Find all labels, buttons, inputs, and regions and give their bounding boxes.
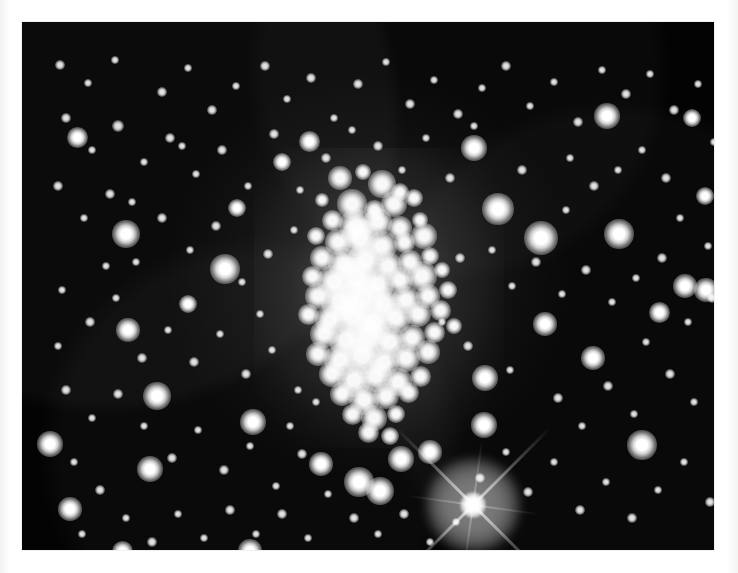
star-point <box>523 487 534 498</box>
star-point <box>299 131 320 152</box>
star-point <box>360 360 392 392</box>
star-point <box>673 274 696 297</box>
star-point <box>256 310 264 318</box>
star-point <box>132 258 140 266</box>
star-point <box>302 266 323 287</box>
star-point <box>594 103 619 128</box>
star-point <box>322 210 343 231</box>
star-point <box>324 490 332 498</box>
star-point <box>384 368 411 395</box>
star-point <box>661 173 672 184</box>
star-point <box>373 141 384 152</box>
star-point <box>112 220 139 247</box>
star-point <box>472 365 497 390</box>
star-point <box>478 84 486 92</box>
star-point <box>219 465 230 476</box>
star-point <box>298 304 319 325</box>
star-point <box>342 404 363 425</box>
star-point <box>164 326 172 334</box>
star-point <box>283 95 291 103</box>
star-point <box>140 158 148 166</box>
star-point <box>430 76 438 84</box>
star-point <box>405 99 416 110</box>
star-point <box>269 129 280 140</box>
star-point <box>638 146 646 154</box>
star-point <box>358 422 379 443</box>
star-point <box>562 206 570 214</box>
star-point <box>578 422 586 430</box>
star-point <box>368 170 395 197</box>
star-point <box>113 389 124 400</box>
star-point <box>263 249 274 260</box>
star-point <box>705 497 714 508</box>
star-point <box>54 342 62 350</box>
star-point <box>111 56 119 64</box>
star-point <box>418 440 441 463</box>
star-point <box>676 214 684 222</box>
star-point <box>174 510 182 518</box>
star-point <box>471 412 496 437</box>
star-point <box>367 231 396 260</box>
star-point <box>566 154 574 162</box>
star-point <box>598 66 606 74</box>
star-point <box>348 126 356 134</box>
star-point <box>332 296 372 336</box>
star-point <box>122 514 130 522</box>
star-point <box>339 209 373 243</box>
star-point <box>80 214 88 222</box>
star-point <box>78 530 86 538</box>
star-point <box>137 353 148 364</box>
star-point <box>310 320 337 347</box>
star-point <box>194 426 202 434</box>
star-point <box>694 278 714 301</box>
star-point <box>329 323 363 357</box>
star-point <box>573 117 584 128</box>
star-point <box>128 198 136 206</box>
star-point <box>405 301 430 326</box>
star-point <box>398 382 419 403</box>
star-point <box>526 102 534 110</box>
star-point <box>58 286 66 294</box>
star-point <box>304 534 312 542</box>
star-point <box>632 274 640 282</box>
star-point <box>627 430 656 459</box>
star-point <box>373 383 398 408</box>
star-point <box>533 312 556 335</box>
star-point <box>61 385 72 396</box>
star-point <box>238 539 261 550</box>
star-point <box>621 89 632 100</box>
star-point <box>614 166 622 174</box>
star-point <box>112 541 133 551</box>
star-point <box>381 191 406 216</box>
star-point <box>367 287 401 321</box>
star-point <box>502 448 510 456</box>
star-point <box>268 346 276 354</box>
star-point <box>67 127 88 148</box>
star-point <box>273 153 292 172</box>
star-point <box>307 227 326 246</box>
star-point <box>374 326 406 358</box>
star-point <box>649 302 670 323</box>
star-point <box>550 458 558 466</box>
star-point <box>296 186 304 194</box>
star-point <box>452 518 460 526</box>
star-point <box>694 80 702 88</box>
star-point <box>147 537 158 548</box>
star-point <box>426 538 434 546</box>
star-point <box>398 250 421 273</box>
diffraction-spike <box>395 427 552 550</box>
star-point <box>630 410 638 418</box>
star-point <box>412 212 429 229</box>
emulsion-grain-overlay <box>22 22 714 550</box>
star-point <box>524 221 558 255</box>
star-point <box>102 262 110 270</box>
star-point <box>315 305 344 334</box>
star-point <box>349 385 378 414</box>
star-point <box>330 114 338 122</box>
star-point <box>290 226 298 234</box>
star-point <box>517 165 528 176</box>
star-point <box>399 509 410 520</box>
star-point <box>105 189 116 200</box>
star-point <box>374 252 401 279</box>
star-point <box>575 505 586 516</box>
